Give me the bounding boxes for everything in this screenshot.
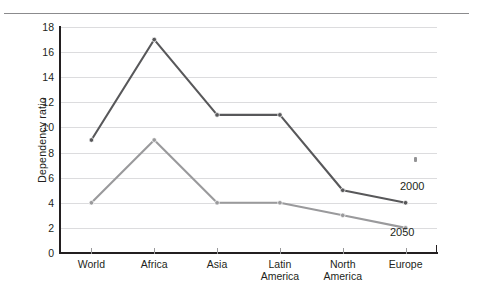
gridline	[60, 52, 437, 53]
x-axis-tick	[280, 248, 281, 254]
x-axis-line	[59, 252, 438, 254]
y-axis-line	[59, 26, 61, 254]
gridline	[60, 102, 437, 103]
y-axis-tick-label: 2	[30, 223, 54, 234]
gridline	[60, 27, 437, 28]
top-divider-rule	[4, 13, 469, 14]
chart-figure: Dependency ratio 024681012141618 WorldAf…	[0, 0, 477, 300]
gridline	[60, 203, 437, 204]
gridline	[60, 77, 437, 78]
x-axis-tick	[91, 248, 92, 254]
x-axis-tick	[406, 248, 407, 254]
y-axis-tick-label: 16	[30, 47, 54, 58]
x-axis-tick	[217, 248, 218, 254]
y-axis-tick-label: 6	[30, 173, 54, 184]
gridline	[60, 228, 437, 229]
series-label-2000: 2000	[400, 180, 424, 192]
y-axis-tick-label: 0	[30, 248, 54, 259]
gridline	[60, 127, 437, 128]
scan-artifact-mark	[414, 157, 417, 162]
gridline	[60, 153, 437, 154]
plot-area	[60, 27, 437, 253]
series-label-2050: 2050	[390, 226, 414, 238]
x-axis-tick	[154, 248, 155, 254]
y-axis-tick-label: 12	[30, 97, 54, 108]
x-axis-tick	[343, 248, 344, 254]
x-axis-tick-label: Europe	[360, 258, 452, 270]
y-axis-tick-labels: 024681012141618	[0, 0, 54, 300]
y-axis-tick-label: 14	[30, 72, 54, 83]
y-axis-tick-label: 18	[30, 22, 54, 33]
y-axis-tick-label: 4	[30, 198, 54, 209]
y-axis-tick-label: 8	[30, 148, 54, 159]
y-axis-tick-label: 10	[30, 122, 54, 133]
gridline	[60, 178, 437, 179]
x-axis-right-cap	[436, 245, 437, 254]
